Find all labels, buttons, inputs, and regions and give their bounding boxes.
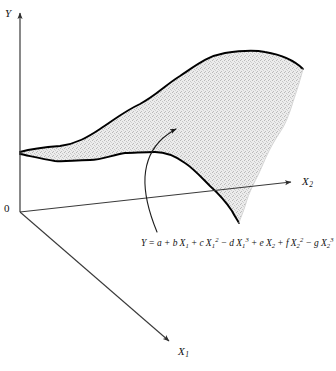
equation-operator: + [251,238,258,248]
equation-term: X23 [321,238,334,248]
equation-subscript: 1 [185,242,188,249]
equation-term: X12 [206,238,219,248]
equation-term: b [173,238,178,248]
equation-superscript: 2 [300,236,303,243]
x1-axis-label: X1 [178,346,189,358]
equation-term: g [314,238,319,248]
equation-operator: − [305,238,312,248]
x2-axis-label: X2 [302,176,313,188]
surface-equation-annotation: Y = a + b X1 + c X12 − d X13 + e X2 + f … [141,236,336,250]
x2-axis-label-base: X [302,175,309,187]
equation-subscript: 2 [272,242,275,249]
equation-superscript: 3 [330,236,333,243]
equation-term: X22 [291,238,304,248]
equation-term: X1 [180,238,189,248]
y-axis-label: Y [5,8,11,19]
equation-operator: + [191,238,198,248]
equation-term: c [200,238,204,248]
response-surface [20,51,303,223]
x1-axis-label-subscript: 1 [185,350,189,359]
equation-term: d [229,238,234,248]
equation-operator: + [277,238,284,248]
equation-term: Y [141,238,146,248]
equation-operator: + [164,238,171,248]
equation-superscript: 2 [215,236,218,243]
origin-label: 0 [4,203,10,214]
x2-axis-label-subscript: 2 [309,180,313,189]
x1-axis [20,212,169,341]
equation-superscript: 3 [245,236,248,243]
equation-operator: − [221,238,228,248]
x2-axis [20,182,291,212]
equation-term: a [157,238,162,248]
equation-operator: = [148,238,155,248]
equation-term: X13 [236,238,249,248]
equation-term: f [286,238,289,248]
equation-term: e [260,238,264,248]
x1-axis-label-base: X [178,345,185,357]
equation-term: X2 [266,238,275,248]
surface-fill [20,51,303,223]
